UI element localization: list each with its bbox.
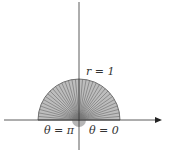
theta-pi-label: θ = π [44,124,75,137]
x-axis-arrow-icon [155,117,162,123]
polar-diagram: r = 1 θ = π θ = 0 [0,0,176,154]
radius-label: r = 1 [86,65,114,78]
theta-zero-label: θ = 0 [89,124,119,137]
